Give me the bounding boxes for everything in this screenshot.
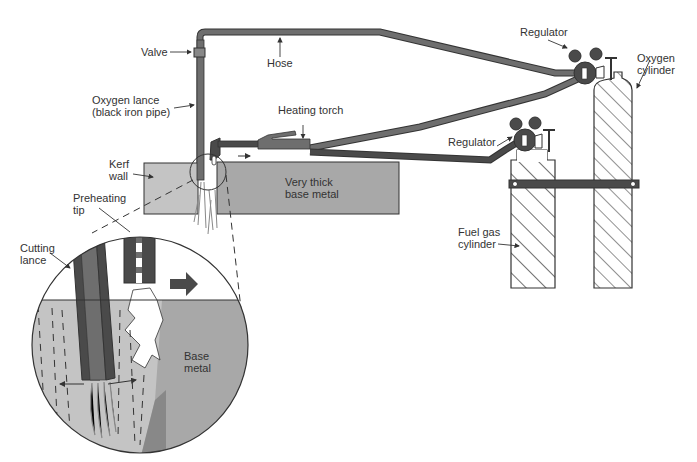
label-base-metal-1: Base xyxy=(184,350,209,362)
label-heating-torch: Heating torch xyxy=(278,104,343,116)
diagram-canvas: Valve Hose Oxygen lance (black iron pipe… xyxy=(0,0,697,462)
label-preheating-2: tip xyxy=(73,204,85,216)
valve xyxy=(194,48,205,57)
label-very-thick-2: base metal xyxy=(285,188,339,200)
label-oxygen-lance-2: (black iron pipe) xyxy=(92,106,170,118)
cylinder-strap xyxy=(509,180,639,188)
label-very-thick-1: Very thick xyxy=(285,176,333,188)
label-oxygen-lance-1: Oxygen lance xyxy=(92,94,159,106)
label-hose: Hose xyxy=(267,57,293,69)
heating-torch xyxy=(210,131,310,165)
label-regulator-mid: Regulator xyxy=(448,136,496,148)
label-kerf-2: wall xyxy=(108,170,128,182)
label-cutting-lance-1: Cutting xyxy=(20,242,55,254)
oxygen-lance xyxy=(197,40,204,180)
label-fuel-gas-1: Fuel gas xyxy=(458,226,501,238)
label-regulator-top: Regulator xyxy=(520,26,568,38)
label-fuel-gas-2: cylinder xyxy=(458,238,496,250)
label-kerf-1: Kerf xyxy=(109,158,130,170)
label-base-metal-2: metal xyxy=(184,362,211,374)
label-preheating-1: Preheating xyxy=(73,192,126,204)
fuel-gas-regulator xyxy=(510,117,555,152)
magnified-detail xyxy=(30,225,250,460)
label-oxygen-cylinder-1: Oxygen xyxy=(637,52,675,64)
label-cutting-lance-2: lance xyxy=(20,254,46,266)
label-oxygen-cylinder-2: cylinder xyxy=(637,64,675,76)
fuel-gas-cylinder xyxy=(511,150,555,288)
label-valve: Valve xyxy=(141,46,168,58)
